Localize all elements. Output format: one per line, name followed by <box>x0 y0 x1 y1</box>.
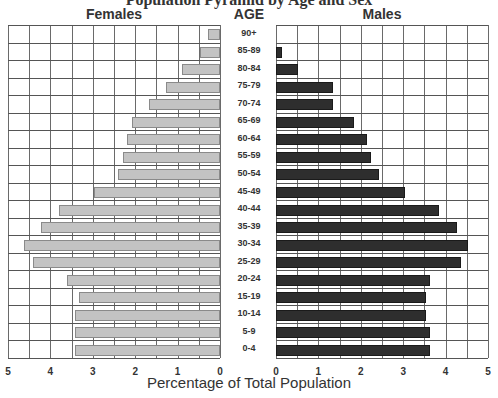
grid-line <box>8 288 220 289</box>
male-bar-50-54 <box>276 169 379 180</box>
age-label: 60-64 <box>222 133 276 143</box>
grid-line <box>8 43 220 44</box>
grid-line <box>276 165 488 166</box>
male-bar-35-39 <box>276 222 457 233</box>
grid-line <box>8 60 220 61</box>
age-label: 0-4 <box>222 343 276 353</box>
grid-line <box>276 148 488 149</box>
grid-line <box>467 25 468 358</box>
male-bar-65-69 <box>276 117 354 128</box>
grid-line <box>8 148 220 149</box>
grid-line <box>8 130 220 131</box>
grid-line <box>8 305 220 306</box>
females-plot <box>8 25 220 358</box>
age-label: 25-29 <box>222 256 276 266</box>
female-bar-90+ <box>208 29 220 40</box>
grid-line <box>8 218 220 219</box>
age-label: 85-89 <box>222 45 276 55</box>
grid-line <box>276 43 488 44</box>
grid-line <box>276 235 488 236</box>
grid-line <box>276 323 488 324</box>
age-label: 15-19 <box>222 291 276 301</box>
grid-line <box>276 288 488 289</box>
female-bar-5-9 <box>75 327 220 338</box>
male-bar-70-74 <box>276 99 333 110</box>
females-title: Females <box>8 6 220 22</box>
grid-line <box>276 130 488 131</box>
grid-line <box>8 340 220 341</box>
male-bar-0-4 <box>276 345 430 356</box>
female-bar-80-84 <box>182 64 220 75</box>
grid-line <box>276 358 488 359</box>
grid-line <box>8 113 220 114</box>
grid-line <box>50 25 51 358</box>
age-title: AGE <box>222 6 276 22</box>
grid-line <box>8 25 9 358</box>
grid-line <box>8 235 220 236</box>
male-bar-10-14 <box>276 310 426 321</box>
grid-line <box>276 113 488 114</box>
grid-line <box>8 270 220 271</box>
grid-line <box>276 270 488 271</box>
male-bar-55-59 <box>276 152 371 163</box>
grid-line <box>276 60 488 61</box>
grid-line <box>8 78 220 79</box>
age-label: 35-39 <box>222 221 276 231</box>
grid-line <box>8 25 220 26</box>
female-bar-30-34 <box>24 240 220 251</box>
female-bar-55-59 <box>123 152 220 163</box>
female-bar-15-19 <box>79 292 220 303</box>
female-bar-25-29 <box>33 257 220 268</box>
male-bar-45-49 <box>276 187 405 198</box>
female-bar-35-39 <box>41 222 220 233</box>
age-label: 55-59 <box>222 150 276 160</box>
age-label: 10-14 <box>222 308 276 318</box>
female-bar-70-74 <box>149 99 220 110</box>
grid-line <box>276 200 488 201</box>
age-label: 45-49 <box>222 186 276 196</box>
female-bar-85-89 <box>200 47 220 58</box>
age-label: 50-54 <box>222 168 276 178</box>
grid-line <box>276 25 488 26</box>
grid-line <box>276 218 488 219</box>
age-label: 30-34 <box>222 238 276 248</box>
age-label: 40-44 <box>222 203 276 213</box>
female-bar-60-64 <box>127 134 220 145</box>
grid-line <box>276 183 488 184</box>
x-axis-label: Percentage of Total Population <box>0 374 498 391</box>
female-bar-0-4 <box>75 345 220 356</box>
grid-line <box>276 305 488 306</box>
female-bar-65-69 <box>132 117 220 128</box>
grid-line <box>220 25 221 358</box>
males-title: Males <box>276 6 488 22</box>
male-bar-60-64 <box>276 134 367 145</box>
age-label: 5-9 <box>222 326 276 336</box>
grid-line <box>8 253 220 254</box>
grid-line <box>276 340 488 341</box>
grid-line <box>8 323 220 324</box>
age-label: 70-74 <box>222 98 276 108</box>
grid-line <box>424 25 425 358</box>
age-label: 75-79 <box>222 80 276 90</box>
male-bar-15-19 <box>276 292 426 303</box>
male-bar-75-79 <box>276 82 333 93</box>
male-bar-85-89 <box>276 47 282 58</box>
male-bar-40-44 <box>276 205 439 216</box>
grid-line <box>8 358 220 359</box>
age-label: 65-69 <box>222 115 276 125</box>
age-label: 80-84 <box>222 63 276 73</box>
age-label: 90+ <box>222 28 276 38</box>
grid-line <box>29 25 30 358</box>
male-bar-25-29 <box>276 257 461 268</box>
grid-line <box>8 183 220 184</box>
grid-line <box>8 165 220 166</box>
male-bar-5-9 <box>276 327 430 338</box>
grid-line <box>446 25 447 358</box>
female-bar-10-14 <box>75 310 220 321</box>
female-bar-20-24 <box>67 275 220 286</box>
grid-line <box>276 78 488 79</box>
grid-line <box>488 25 489 358</box>
grid-line <box>8 95 220 96</box>
male-bar-30-34 <box>276 240 468 251</box>
grid-line <box>8 200 220 201</box>
